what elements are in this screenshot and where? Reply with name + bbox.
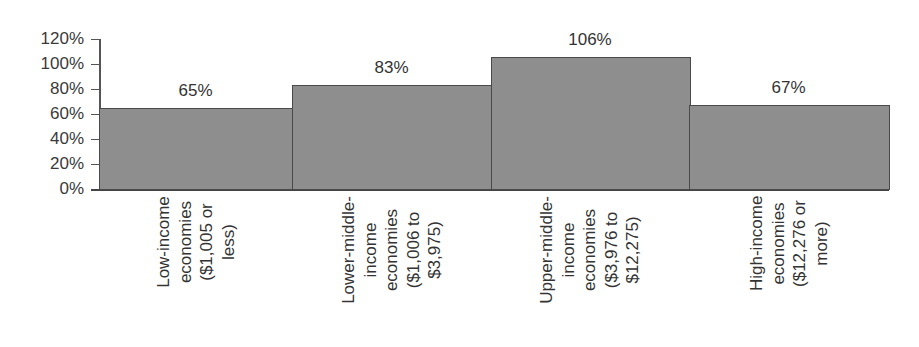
y-tick-mark [91,139,99,141]
y-tick-label: 100% [0,55,84,72]
bar-3 [491,57,691,191]
x-category-label: Low-incomeeconomies($1,005 orless) [153,196,239,346]
y-tick-label: 40% [0,130,84,147]
x-category-label-line: High-income [746,196,768,291]
x-category-label-line: ($12,276 or [789,196,811,291]
bar-value-label: 83% [292,59,491,76]
x-category-label: Lower-middle-incomeeconomies($1,006 to$3… [338,196,446,346]
x-category-label-line: ($1,005 or [196,196,218,288]
x-category-label-line: $12,275) [622,196,644,304]
y-tick-label: 80% [0,80,84,97]
x-category-label-line: economies [381,196,403,304]
y-tick-label: 120% [0,30,84,47]
x-category-label-line: ($1,006 to [402,196,424,304]
y-tick-mark [91,164,99,166]
x-category-label-line: $3,975) [424,196,446,304]
x-category-label: High-incomeeconomies($12,276 ormore) [746,196,832,346]
x-category-label: Upper-middle-incomeeconomies($3,976 to$1… [536,196,644,346]
y-tick-mark [91,64,99,66]
bar-1 [99,108,294,190]
x-category-label-line: economies [767,196,789,291]
x-category-label-line: ($3,976 to [601,196,623,304]
y-tick-label: 60% [0,105,84,122]
y-tick-label: 20% [0,155,84,172]
bar-4 [689,105,890,190]
x-category-label-line: income [558,196,580,304]
x-category-label-line: economies [174,196,196,288]
y-tick-mark [91,114,99,116]
x-category-label-line: more) [810,196,832,291]
bar-value-label: 65% [99,82,292,99]
x-category-label-line: economies [579,196,601,304]
bar-2 [292,85,493,190]
x-category-label-line: Upper-middle- [536,196,558,304]
x-category-label-line: less) [217,196,239,288]
x-category-label-line: Lower-middle- [338,196,360,304]
x-category-label-line: income [359,196,381,304]
y-tick-label: 0% [0,180,84,197]
bar-value-label: 67% [689,79,888,96]
income-economies-bar-chart: 0%20%40%60%80%100%120% 65%83%106%67% Low… [0,0,919,347]
x-category-label-line: Low-income [153,196,175,288]
y-tick-mark [91,39,99,41]
bar-value-label: 106% [491,31,689,48]
y-tick-mark [91,89,99,91]
